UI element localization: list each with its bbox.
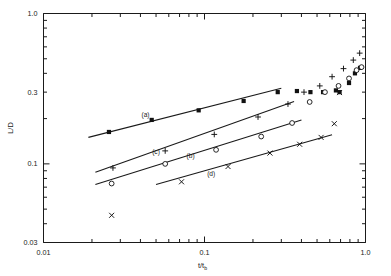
y-tick-label: 0.3 <box>28 88 38 97</box>
y-tick-label: 0.1 <box>28 159 38 168</box>
tick-labels: 0.010.11.00.030.10.31.0 <box>24 9 371 257</box>
y-tick-label: 1.0 <box>28 9 38 18</box>
y-tick-label: 0.03 <box>24 238 38 247</box>
chart-figure: (a)(b)(c)(d) 0.010.11.00.030.10.31.0 t/t… <box>0 0 391 276</box>
axis-ticks <box>44 14 366 243</box>
log-log-scatter-plot: (a)(b)(c)(d) 0.010.11.00.030.10.31.0 t/t… <box>0 0 391 276</box>
data-points <box>107 50 364 218</box>
curve-label-c: (c) <box>152 148 160 156</box>
x-tick-label: 1.0 <box>361 248 371 257</box>
series-d <box>109 90 342 218</box>
curve-label-a: (a) <box>141 111 149 119</box>
x-axis-title: t/tb <box>198 261 207 271</box>
fit-line-a <box>88 88 281 137</box>
curve-label-d: (d) <box>207 170 215 178</box>
curve-label-b: (b) <box>187 152 195 160</box>
y-axis-title: L/D <box>6 122 15 134</box>
x-tick-label: 0.1 <box>200 248 210 257</box>
x-tick-label: 0.01 <box>37 248 51 257</box>
plot-frame <box>44 14 366 243</box>
fit-line-d <box>156 135 332 185</box>
fit-line-c <box>95 101 294 172</box>
